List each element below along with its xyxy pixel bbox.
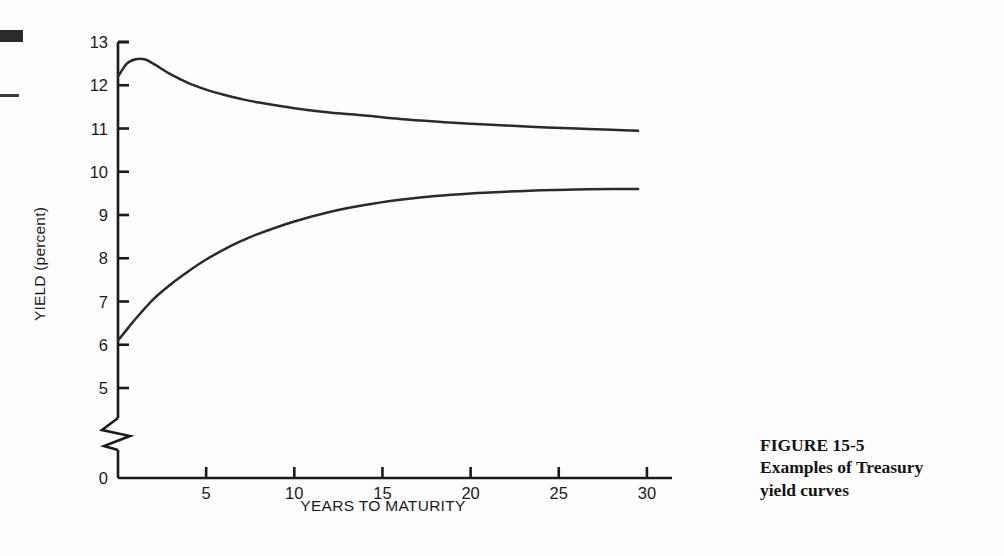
x-tick-label: 25: [550, 485, 568, 502]
caption-number: FIGURE 15-5: [760, 434, 995, 456]
axis-lines: [102, 42, 672, 478]
curve-group: [118, 59, 638, 341]
y-tick-label: 7: [99, 293, 108, 310]
curve-inverted-yield: [118, 59, 638, 131]
y-tick-label: 13: [90, 34, 108, 51]
figure-caption: FIGURE 15-5 Examples of Treasury yield c…: [760, 434, 995, 501]
y-tick-label: 9: [99, 207, 108, 224]
y-tick-label: 5: [99, 380, 108, 397]
x-tick-label: 5: [202, 485, 211, 502]
y-tick-label: 11: [91, 120, 108, 137]
y-tick-label: 6: [99, 337, 108, 354]
y-tick-label: 8: [99, 250, 108, 267]
x-tick-label: 15: [373, 485, 391, 502]
x-tick-label: 10: [285, 485, 303, 502]
y-tick-label: 10: [90, 164, 108, 181]
caption-line-1: Examples of Treasury: [760, 456, 995, 478]
y-axis-title: YIELD (percent): [31, 164, 49, 364]
curve-normal-yield: [118, 189, 638, 340]
y-tick-label-zero: 0: [99, 470, 108, 487]
figure-page: YIELD (percent) YEARS TO MATURITY 131211…: [0, 0, 1004, 556]
x-tick-label: 20: [461, 485, 479, 502]
x-tick-label: 30: [638, 485, 656, 502]
y-tick-label: 12: [90, 77, 108, 94]
axis-ticks: [118, 42, 647, 478]
caption-line-2: yield curves: [760, 479, 995, 501]
